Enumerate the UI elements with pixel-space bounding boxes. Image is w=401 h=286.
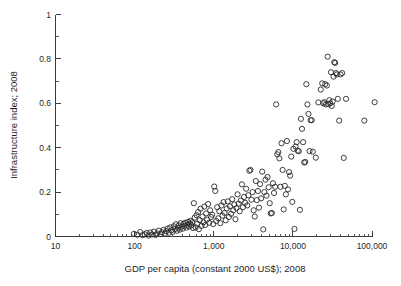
x-tick-label: 10,000 xyxy=(280,241,306,251)
data-point xyxy=(256,205,261,210)
data-point xyxy=(239,182,244,187)
data-point xyxy=(230,197,235,202)
chart-canvas: 101001,00010,000100,000 00.20.40.60.81 G… xyxy=(0,0,401,286)
data-point xyxy=(266,185,271,190)
data-point xyxy=(131,231,136,236)
data-point xyxy=(267,201,272,206)
data-point xyxy=(338,72,343,77)
y-axis-ticks xyxy=(56,15,62,237)
data-point xyxy=(255,188,260,193)
y-tick-label: 0.4 xyxy=(39,143,51,153)
data-point xyxy=(305,102,310,107)
data-point xyxy=(337,118,342,123)
data-point xyxy=(289,154,294,159)
x-tick-label: 10 xyxy=(51,241,61,251)
data-point xyxy=(284,138,289,143)
data-point xyxy=(362,118,367,123)
data-point xyxy=(281,207,286,212)
data-point xyxy=(235,192,240,197)
data-point xyxy=(318,87,323,92)
data-point xyxy=(325,54,330,59)
data-point xyxy=(191,201,196,206)
data-point xyxy=(283,192,288,197)
data-point xyxy=(257,182,262,187)
data-point xyxy=(299,126,304,131)
x-axis-ticks xyxy=(56,231,373,237)
data-point xyxy=(343,96,348,101)
data-point xyxy=(313,155,318,160)
data-point xyxy=(250,190,255,195)
y-tick-label: 1 xyxy=(46,10,51,20)
data-point xyxy=(304,82,309,87)
scatter-chart: 101001,00010,000100,000 00.20.40.60.81 G… xyxy=(0,0,401,286)
data-point xyxy=(301,140,306,145)
y-axis-title: Infrastructure index; 2008 xyxy=(8,71,19,179)
data-point xyxy=(290,199,295,204)
x-tick-label: 100 xyxy=(128,241,142,251)
y-axis-tick-labels: 00.20.40.60.81 xyxy=(39,10,51,242)
data-point xyxy=(252,214,257,219)
data-point xyxy=(288,173,293,178)
data-point xyxy=(249,197,254,202)
data-point xyxy=(340,71,345,76)
data-point xyxy=(310,149,315,154)
data-point xyxy=(285,187,290,192)
data-point xyxy=(280,167,285,172)
data-point xyxy=(341,155,346,160)
data-point xyxy=(218,221,223,226)
data-point xyxy=(233,217,238,222)
data-point xyxy=(316,100,321,105)
data-point xyxy=(306,111,311,116)
data-point xyxy=(274,102,279,107)
data-point xyxy=(251,208,256,213)
data-point xyxy=(206,201,211,206)
data-point xyxy=(292,226,297,231)
data-point xyxy=(298,116,303,121)
x-tick-label: 100,000 xyxy=(357,241,388,251)
x-tick-label: 1,000 xyxy=(203,241,225,251)
data-points xyxy=(131,54,377,238)
y-tick-label: 0.8 xyxy=(39,54,51,64)
data-point xyxy=(297,207,302,212)
y-tick-label: 0.6 xyxy=(39,98,51,108)
data-point xyxy=(279,141,284,146)
data-point xyxy=(286,170,291,175)
data-point xyxy=(372,100,377,105)
y-tick-label: 0.2 xyxy=(39,187,51,197)
plot-area: 101001,00010,000100,000 00.20.40.60.81 G… xyxy=(8,10,388,275)
x-axis-title: GDP per capita (constant 2000 US$); 2008 xyxy=(125,263,306,274)
x-axis-tick-labels: 101001,00010,000100,000 xyxy=(51,241,388,251)
data-point xyxy=(261,227,266,232)
data-point xyxy=(260,169,265,174)
data-point xyxy=(277,156,282,161)
data-point xyxy=(223,218,228,223)
data-point xyxy=(335,96,340,101)
y-tick-label: 0 xyxy=(46,232,51,242)
data-point xyxy=(271,190,276,195)
data-point xyxy=(244,186,249,191)
